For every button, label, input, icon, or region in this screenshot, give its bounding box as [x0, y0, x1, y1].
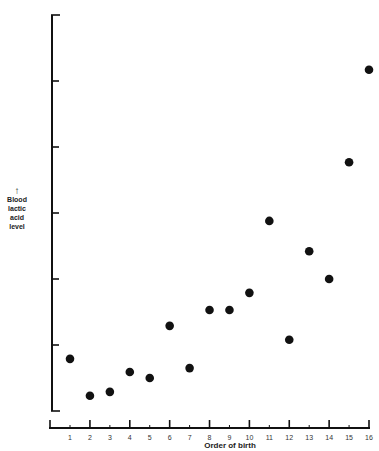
data-point — [66, 355, 75, 364]
data-point — [106, 388, 115, 397]
x-tick-label: 5 — [148, 434, 152, 441]
data-point — [245, 289, 254, 298]
data-point — [305, 247, 314, 256]
x-axis-label: Order of birth — [180, 441, 280, 450]
y-axis-label-line: lactic — [2, 204, 32, 213]
x-tick-label: 2 — [88, 434, 92, 441]
x-tick-label: 12 — [285, 434, 293, 441]
x-tick-label: 11 — [266, 434, 273, 441]
y-axis-label-line: Blood — [2, 195, 32, 204]
x-tick-label: 16 — [365, 434, 373, 441]
data-point — [325, 275, 334, 284]
x-tick-label: 3 — [108, 434, 112, 441]
x-tick-label: 15 — [345, 434, 353, 441]
x-tick-label: 1 — [68, 434, 72, 441]
x-tick-label: 9 — [228, 434, 232, 441]
x-tick-label: 14 — [325, 434, 333, 441]
data-points — [66, 65, 374, 400]
y-axis — [51, 15, 60, 411]
data-point — [165, 322, 174, 331]
data-point — [225, 306, 234, 315]
data-point — [205, 306, 214, 315]
data-point — [285, 335, 294, 344]
y-axis-label-line: acid — [2, 213, 32, 222]
x-tick-label: 7 — [188, 434, 192, 441]
data-point — [365, 65, 374, 74]
x-tick-label: 10 — [246, 434, 254, 441]
data-point — [145, 374, 154, 383]
data-point — [86, 392, 95, 401]
x-tick-labels: 12345678910111213141516 — [68, 434, 373, 441]
data-point — [345, 158, 354, 167]
y-axis-label: ↑ Blood lactic acid level — [2, 186, 32, 231]
x-tick-label: 8 — [208, 434, 212, 441]
x-tick-label: 4 — [128, 434, 132, 441]
data-point — [265, 217, 274, 226]
data-point — [185, 364, 194, 373]
data-point — [126, 368, 135, 377]
x-axis — [49, 420, 370, 428]
x-tick-label: 6 — [168, 434, 172, 441]
x-tick-label: 13 — [305, 434, 313, 441]
y-axis-label-line: level — [2, 222, 32, 231]
up-arrow-icon: ↑ — [2, 186, 32, 195]
scatter-chart: 12345678910111213141516 — [0, 0, 379, 451]
